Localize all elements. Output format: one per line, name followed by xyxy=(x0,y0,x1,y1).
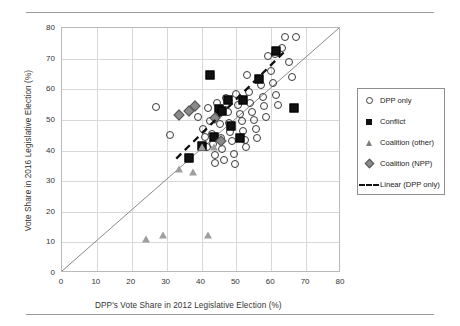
legend-item-dpp-only[interactable]: DPP only xyxy=(358,90,444,111)
y-tick-40: 40 xyxy=(35,145,55,154)
legend-item-conflict[interactable]: Conflict xyxy=(358,111,444,132)
x-tick-0: 0 xyxy=(59,277,63,286)
x-tick-40: 40 xyxy=(196,277,205,286)
dashed-line-icon-glyph xyxy=(359,184,379,186)
legend-label: Linear (DPP only) xyxy=(380,180,440,189)
y-tick-10: 10 xyxy=(35,237,55,246)
legend-label: Coalition (other) xyxy=(380,138,434,147)
x-tick-50: 50 xyxy=(231,277,240,286)
diamond-marker-icon xyxy=(358,160,380,167)
square-marker-icon-glyph xyxy=(366,119,372,125)
circle-marker-icon-glyph xyxy=(366,97,373,104)
chart-legend: DPP onlyConflictCoalition (other)Coaliti… xyxy=(357,88,445,195)
plot-area xyxy=(61,27,340,272)
legend-label: Coalition (NPP) xyxy=(380,159,432,168)
legend-item-coalition-npp[interactable]: Coalition (NPP) xyxy=(358,153,444,174)
x-tick-20: 20 xyxy=(126,277,135,286)
y-tick-60: 60 xyxy=(35,84,55,93)
y-tick-20: 20 xyxy=(35,206,55,215)
square-marker-icon xyxy=(358,119,380,125)
circle-marker-icon xyxy=(358,97,380,104)
x-tick-80: 80 xyxy=(336,277,345,286)
triangle-marker-icon xyxy=(358,140,380,146)
legend-item-linear-dpp-only[interactable]: Linear (DPP only) xyxy=(358,174,444,195)
dashed-line-icon xyxy=(358,184,380,186)
legend-item-coalition-other[interactable]: Coalition (other) xyxy=(358,132,444,153)
x-tick-60: 60 xyxy=(266,277,275,286)
legend-label: DPP only xyxy=(380,96,412,105)
triangle-marker-icon-glyph xyxy=(366,140,372,146)
linear-trend-line xyxy=(62,28,339,271)
y-tick-0: 0 xyxy=(35,268,55,277)
y-tick-30: 30 xyxy=(35,176,55,185)
x-tick-10: 10 xyxy=(91,277,100,286)
scatter-chart-figure: Vote Share in 2016 Legislative Election … xyxy=(0,0,460,326)
y-axis-title: Vote Share in 2016 Legislative Election … xyxy=(24,51,33,251)
y-tick-50: 50 xyxy=(35,114,55,123)
diamond-marker-icon-glyph xyxy=(364,159,374,169)
y-tick-80: 80 xyxy=(35,23,55,32)
x-tick-70: 70 xyxy=(301,277,310,286)
x-axis-title: DPP's Vote Share in 2012 Legislative Ele… xyxy=(95,301,282,310)
x-tick-30: 30 xyxy=(161,277,170,286)
legend-label: Conflict xyxy=(380,117,405,126)
y-tick-70: 70 xyxy=(35,53,55,62)
